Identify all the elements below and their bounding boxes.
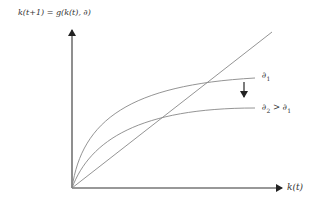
curve-d2-comparison: > ∂ [270,102,287,112]
line-45-degree [72,32,272,188]
curve-d2 [72,108,255,188]
curve-d2-label: ∂2 > ∂1 [262,102,291,114]
curve-d1-label: ∂1 [262,70,270,82]
curve-d1-subscript: 1 [266,75,270,82]
curve-d2-subscript2: 1 [287,107,291,114]
curve-d1 [72,78,255,188]
x-axis-label: k(t) [287,182,303,192]
y-axis-label: k(t+1) = g(k(t), ∂) [18,8,91,17]
